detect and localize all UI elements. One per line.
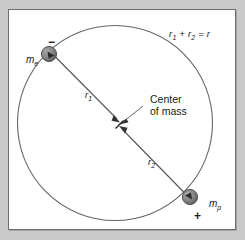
radius-2-line — [122, 129, 190, 199]
radius-2-label: r2 — [148, 157, 155, 170]
equation-r: r — [207, 28, 210, 39]
center-of-mass-line-1: Center — [150, 94, 187, 106]
radius-1-arrowhead — [112, 115, 121, 123]
center-of-mass-leader-arrowhead — [120, 119, 129, 125]
radius-2-subscript: 2 — [151, 162, 155, 169]
charge-positive-label: + — [194, 210, 201, 223]
mass-electron-subscript: e — [34, 60, 38, 67]
radius-1-subscript: 1 — [88, 95, 92, 102]
charge-negative-label: − — [48, 36, 55, 49]
mass-electron-label: me — [26, 54, 38, 68]
radius-2-arrowhead — [119, 126, 128, 134]
radius-1-label: r1 — [85, 90, 92, 103]
figure-root: r1 + r2 = r me − mp + r1 r2 Center of ma… — [0, 0, 245, 240]
center-of-mass-label: Center of mass — [150, 94, 187, 117]
radius-1-line — [54, 56, 117, 120]
center-of-mass-line-2: of mass — [150, 106, 187, 118]
mass-proton-label: mp — [209, 198, 221, 212]
mass-proton-subscript: p — [217, 204, 221, 211]
equation-label: r1 + r2 = r — [169, 29, 210, 42]
orbit-diagram — [9, 10, 235, 229]
figure-panel: r1 + r2 = r me − mp + r1 r2 Center of ma… — [8, 9, 236, 230]
